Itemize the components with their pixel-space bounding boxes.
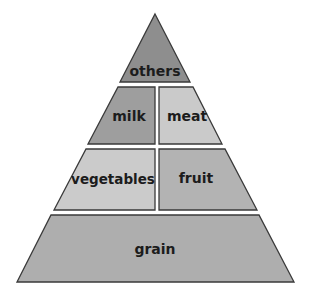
tier-grain: grain (17, 215, 294, 282)
milk-label: milk (112, 108, 146, 124)
vegetables-label: vegetables (71, 171, 155, 187)
food-pyramid: others milk meat vegetables fruit grain (0, 0, 312, 300)
tier-others: others (120, 14, 190, 82)
tier-milk-meat: milk meat (88, 87, 222, 144)
meat-label: meat (167, 108, 208, 124)
tier-vegetables-fruit: vegetables fruit (54, 149, 257, 210)
others-label: others (129, 63, 180, 79)
fruit-label: fruit (179, 170, 214, 186)
grain-label: grain (134, 241, 175, 257)
